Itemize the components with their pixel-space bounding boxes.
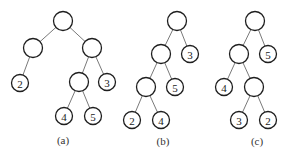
tree-edge: [180, 30, 186, 46]
node-label: 4: [221, 82, 227, 94]
internal-node: [24, 39, 43, 58]
tree-edge: [228, 63, 236, 80]
node-label: 3: [236, 115, 242, 127]
tree-edge: [258, 96, 265, 112]
internal-node: [168, 12, 187, 31]
tree-edge: [150, 96, 158, 113]
tree-edge: [243, 63, 250, 79]
tree-edge: [23, 57, 30, 75]
node-circle: [245, 78, 264, 97]
tree-edges: [228, 30, 265, 113]
node-circle: [246, 12, 265, 31]
subfigure-caption: (c): [251, 135, 264, 148]
subfigure-caption: (b): [157, 135, 170, 148]
node-label: 5: [90, 111, 96, 123]
leaf-node: 5: [260, 46, 277, 63]
internal-node: [137, 78, 156, 97]
tree-edges: [135, 30, 187, 113]
node-label: 2: [265, 115, 271, 127]
tree-edge: [82, 57, 88, 73]
tree-c: 5432(c): [216, 12, 277, 149]
tree-edge: [40, 27, 56, 41]
leaf-node: 3: [99, 74, 116, 91]
tree-edge: [243, 96, 251, 113]
leaf-node: 5: [85, 108, 102, 125]
leaf-node: 2: [12, 75, 29, 92]
tree-edge: [165, 63, 172, 79]
leaf-node: 4: [216, 79, 233, 96]
tree-edge: [135, 96, 142, 112]
node-label: 4: [158, 115, 164, 127]
leaf-node: 3: [231, 112, 248, 129]
node-circle: [54, 12, 73, 31]
node-circle: [137, 78, 156, 97]
node-label: 5: [172, 82, 178, 94]
binary-trees-figure: 2345(a)3524(b)5432(c): [0, 0, 285, 153]
tree-edge: [243, 30, 251, 46]
internal-node: [246, 12, 265, 31]
node-label: 2: [17, 78, 23, 90]
node-circle: [24, 39, 43, 58]
node-label: 3: [187, 49, 193, 61]
tree-edge: [96, 57, 104, 75]
node-label: 3: [104, 77, 110, 89]
node-label: 2: [129, 115, 135, 127]
node-label: 5: [265, 49, 271, 61]
tree-edge: [165, 30, 173, 46]
tree-a: 2345(a): [12, 12, 116, 148]
tree-edge: [258, 30, 264, 46]
node-circle: [230, 45, 249, 64]
tree-edge: [150, 63, 157, 79]
leaf-node: 3: [182, 46, 199, 63]
node-circle: [70, 73, 89, 92]
node-circle: [168, 12, 187, 31]
node-circle: [83, 39, 102, 58]
internal-node: [152, 45, 171, 64]
internal-node: [230, 45, 249, 64]
leaf-node: 2: [260, 112, 277, 129]
tree-edge: [70, 27, 85, 41]
tree-edge: [83, 91, 90, 108]
node-label: 4: [61, 111, 67, 123]
leaf-node: 4: [153, 112, 170, 129]
leaf-node: 5: [167, 79, 184, 96]
leaf-node: 4: [56, 108, 73, 125]
internal-node: [83, 39, 102, 58]
node-circle: [152, 45, 171, 64]
tree-edge: [67, 91, 75, 109]
subfigure-caption: (a): [57, 134, 70, 147]
internal-node: [70, 73, 89, 92]
leaf-node: 2: [124, 112, 141, 129]
internal-node: [245, 78, 264, 97]
internal-node: [54, 12, 73, 31]
tree-b: 3524(b): [124, 12, 199, 149]
